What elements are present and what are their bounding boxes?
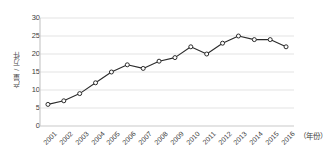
line-chart: 产量 / 万件 051015202530 2001200220032004200… (0, 0, 330, 168)
x-axis-tick-labels: 2001200220032004200520062007200820092010… (0, 0, 330, 168)
x-axis-title: （年份） (299, 130, 327, 141)
